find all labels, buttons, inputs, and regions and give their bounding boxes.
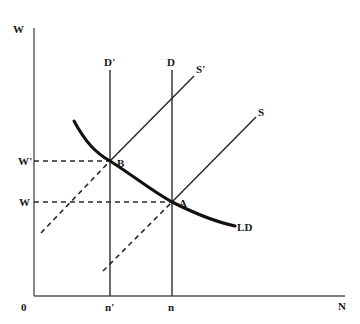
curve-label-s-prime: S' — [196, 64, 206, 75]
y-axis-label: W — [13, 24, 24, 35]
supply-line-s-prime — [110, 76, 194, 161]
y-tick-label-w-prime: W' — [18, 156, 32, 167]
x-tick-label-n: n — [168, 302, 174, 313]
curve-label-s: S — [258, 107, 264, 118]
supply-line-s-prime-dashed-extension — [41, 161, 110, 233]
curve-label-d-prime: D' — [104, 57, 115, 68]
x-tick-label-n-prime: n' — [105, 302, 115, 313]
x-axis-label: N — [338, 301, 346, 312]
curve-label-d: D — [167, 57, 175, 68]
supply-line-s-dashed-extension — [103, 202, 172, 271]
origin-label: 0 — [21, 302, 27, 313]
curve-label-ld: LD — [237, 222, 253, 233]
point-label-a: A — [179, 198, 187, 209]
economics-labour-market-diagram: W N 0 W' W n' n D' D S' S LD B A — [0, 0, 360, 324]
supply-line-s — [172, 117, 256, 202]
point-label-b: B — [117, 158, 125, 169]
y-tick-label-w: W — [19, 197, 30, 208]
diagram-canvas — [0, 0, 360, 324]
